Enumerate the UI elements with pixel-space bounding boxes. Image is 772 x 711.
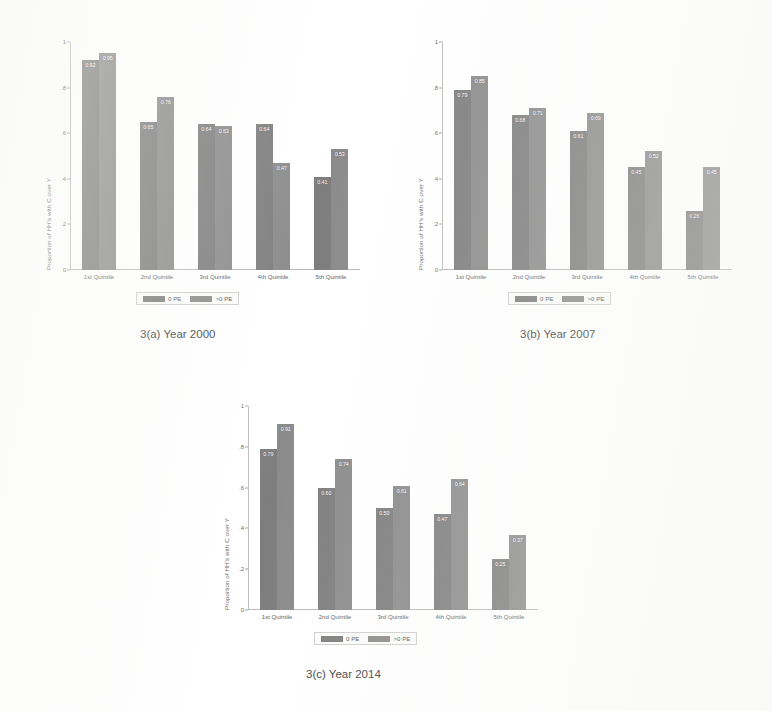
x-axis-category-label: 2nd Quintile	[141, 273, 174, 280]
y-axis-tick-label: .6	[239, 485, 244, 491]
bar-value-label: 0.64	[259, 126, 269, 132]
y-axis-tick-label: .4	[239, 525, 244, 531]
y-axis-tick-mark	[67, 87, 70, 88]
bar-value-label: 0.74	[339, 461, 349, 467]
y-axis-line	[442, 42, 443, 270]
bar-value-label: 0.61	[573, 133, 583, 139]
y-axis-tick-label: .2	[61, 221, 66, 227]
chart-b-legend: 0 PE >0 PE	[508, 292, 611, 305]
bar: 0.45	[703, 167, 720, 270]
x-axis-category-label: 3rd Quintile	[377, 613, 408, 620]
bar-value-label: 0.92	[85, 62, 95, 68]
y-axis-tick-label: .4	[433, 176, 438, 182]
y-axis-tick-label: 0	[63, 267, 66, 273]
y-axis-tick-mark	[245, 446, 248, 447]
y-axis-tick-label: .8	[239, 444, 244, 450]
bar: 0.25	[492, 559, 509, 610]
bar-value-label: 0.91	[281, 426, 291, 432]
bar-value-label: 0.37	[513, 537, 523, 543]
chart-b-caption: 3(b) Year 2007	[520, 328, 595, 340]
bar-value-label: 0.79	[263, 451, 273, 457]
legend-item-pos-pe: >0 PE	[190, 295, 232, 302]
legend-swatch-zero-pe	[321, 636, 343, 642]
x-axis-category-label: 2nd Quintile	[319, 613, 352, 620]
bar-value-label: 0.64	[455, 481, 465, 487]
bar-value-label: 0.50	[379, 510, 389, 516]
bar: 0.47	[434, 514, 451, 610]
y-axis-tick-label: 1	[63, 39, 66, 45]
bar: 0.37	[509, 535, 526, 610]
y-axis-tick-mark	[67, 133, 70, 134]
x-axis-category-label: 3rd Quintile	[571, 273, 602, 280]
bar-value-label: 0.45	[631, 169, 641, 175]
legend-label-zero-pe: 0 PE	[168, 295, 181, 302]
bar-value-label: 0.60	[321, 490, 331, 496]
bar: 0.79	[454, 90, 471, 270]
x-axis-category-label: 4th Quintile	[258, 273, 289, 280]
y-axis	[226, 406, 248, 610]
bar-value-label: 0.64	[201, 126, 211, 132]
bar: 0.85	[471, 76, 488, 270]
x-axis-category-label: 3rd Quintile	[199, 273, 230, 280]
y-axis-tick-mark	[67, 224, 70, 225]
legend-item-zero-pe: 0 PE	[321, 635, 359, 642]
bar: 0.71	[529, 108, 546, 270]
bar-value-label: 0.47	[277, 165, 287, 171]
y-axis-tick-mark	[439, 133, 442, 134]
bar: 0.69	[587, 113, 604, 270]
y-axis-tick-mark	[245, 569, 248, 570]
bar-value-label: 0.25	[495, 561, 505, 567]
figure-panel-a: Proportion of HH's with C over Y1.8.6.4.…	[36, 36, 376, 356]
legend-label-zero-pe: 0 PE	[346, 635, 359, 642]
y-axis-tick-label: 1	[241, 403, 244, 409]
y-axis-tick-label: .4	[61, 176, 66, 182]
legend-swatch-zero-pe	[143, 296, 165, 302]
bar: 0.65	[140, 122, 157, 270]
legend-label-zero-pe: 0 PE	[540, 295, 553, 302]
chart-a-legend: 0 PE >0 PE	[136, 292, 239, 305]
bar-value-label: 0.76	[161, 99, 171, 105]
y-axis-tick-label: 1	[435, 39, 438, 45]
bar: 0.64	[451, 479, 468, 610]
x-axis-category-label: 5th Quintile	[688, 273, 719, 280]
y-axis-tick-label: .6	[433, 130, 438, 136]
bar: 0.74	[335, 459, 352, 610]
bar: 0.53	[331, 149, 348, 270]
bar-value-label: 0.47	[437, 516, 447, 522]
bar: 0.52	[645, 151, 662, 270]
bar-value-label: 0.79	[457, 92, 467, 98]
x-axis-category-label: 1st Quintile	[456, 273, 486, 280]
legend-label-pos-pe: >0 PE	[215, 295, 232, 302]
legend-label-pos-pe: >0 PE	[587, 295, 604, 302]
x-axis-category-label: 4th Quintile	[630, 273, 661, 280]
bar: 0.47	[273, 163, 290, 270]
bar-value-label: 0.45	[707, 169, 717, 175]
figure-panel-c: Proportion of HH's with C over Y1.8.6.4.…	[214, 400, 554, 700]
legend-item-zero-pe: 0 PE	[143, 295, 181, 302]
y-axis-tick-label: .2	[433, 221, 438, 227]
bar: 0.92	[82, 60, 99, 270]
bar: 0.61	[570, 131, 587, 270]
bar-value-label: 0.52	[649, 153, 659, 159]
bar: 0.64	[256, 124, 273, 270]
bar-value-label: 0.26	[689, 213, 699, 219]
y-axis-tick-mark	[245, 406, 248, 407]
legend-swatch-zero-pe	[515, 296, 537, 302]
y-axis-tick-label: .8	[433, 85, 438, 91]
y-axis-tick-label: 0	[241, 607, 244, 613]
bar: 0.76	[157, 97, 174, 270]
x-axis-category-label: 5th Quintile	[494, 613, 525, 620]
chart-a-caption: 3(a) Year 2000	[140, 328, 215, 340]
bar-value-label: 0.61	[397, 488, 407, 494]
bar-value-label: 0.71	[533, 110, 543, 116]
y-axis-tick-label: .6	[61, 130, 66, 136]
bar: 0.63	[215, 126, 232, 270]
legend-item-pos-pe: >0 PE	[562, 295, 604, 302]
bar-value-label: 0.68	[515, 117, 525, 123]
bar-chart-c: Proportion of HH's with C over Y1.8.6.4.…	[214, 400, 544, 628]
legend-swatch-pos-pe	[190, 296, 212, 302]
y-axis-tick-mark	[439, 224, 442, 225]
y-axis-tick-mark	[67, 178, 70, 179]
bar-value-label: 0.85	[475, 78, 485, 84]
x-axis-category-label: 5th Quintile	[316, 273, 347, 280]
